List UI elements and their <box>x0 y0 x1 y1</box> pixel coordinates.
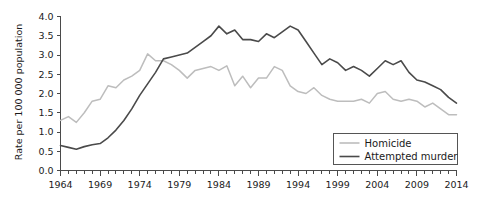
x-tick-label: 1964 <box>48 179 72 190</box>
x-tick-label: 1999 <box>326 179 350 190</box>
x-tick-label: 2009 <box>405 179 429 190</box>
y-tick-label: 2.5 <box>38 69 53 80</box>
y-tick-label: 3.0 <box>38 49 53 60</box>
x-tick-label: 1984 <box>207 179 231 190</box>
x-axis-ticks: 1964196919741979198419891994199920042009… <box>48 171 468 190</box>
y-tick-label: 3.5 <box>38 30 53 41</box>
y-axis-ticks: 0.00.51.01.52.02.53.03.54.0 <box>38 11 60 176</box>
x-tick-label: 1979 <box>167 179 191 190</box>
line-chart: Rate per 100 000 population 0.00.51.01.5… <box>0 0 482 206</box>
series-line-homicide <box>61 54 457 123</box>
x-tick-label: 2004 <box>365 179 389 190</box>
x-tick-label: 1974 <box>128 179 152 190</box>
legend: HomicideAttempted murder <box>334 134 459 165</box>
y-tick-label: 0.0 <box>38 165 53 176</box>
y-axis-label: Rate per 100 000 population <box>13 24 24 160</box>
x-tick-label: 1989 <box>246 179 270 190</box>
chart-container: Rate per 100 000 population 0.00.51.01.5… <box>0 0 482 206</box>
x-tick-label: 1994 <box>286 179 310 190</box>
legend-label-attempted-murder: Attempted murder <box>365 151 459 162</box>
series-lines <box>61 26 457 149</box>
y-tick-label: 1.5 <box>38 107 53 118</box>
y-axis-title: Rate per 100 000 population <box>13 24 24 160</box>
y-tick-label: 4.0 <box>38 11 53 22</box>
x-tick-label: 1969 <box>88 179 112 190</box>
series-line-attempted-murder <box>61 26 457 149</box>
y-tick-label: 1.0 <box>38 126 53 137</box>
legend-label-homicide: Homicide <box>365 138 412 149</box>
y-tick-label: 0.5 <box>38 146 53 157</box>
y-tick-label: 2.0 <box>38 88 53 99</box>
x-tick-label: 2014 <box>444 179 468 190</box>
